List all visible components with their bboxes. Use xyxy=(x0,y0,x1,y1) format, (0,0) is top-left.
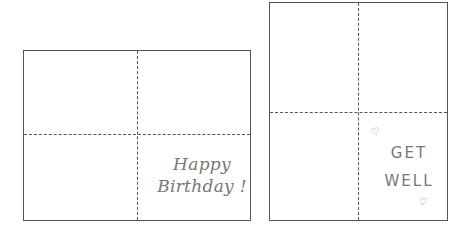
vertical-fold-line xyxy=(137,51,138,220)
message-line-1: Happy xyxy=(152,153,252,175)
birthday-message: Happy Birthday ! xyxy=(152,153,252,197)
horizontal-fold-line xyxy=(270,112,447,113)
message-line-1: GET xyxy=(374,139,444,167)
message-line-2: Birthday ! xyxy=(152,175,252,197)
get-well-message: GET WELL xyxy=(374,139,444,195)
heart-icon: ♡ xyxy=(417,195,429,208)
horizontal-fold-line xyxy=(24,134,250,135)
heart-icon: ♡ xyxy=(370,125,382,138)
get-well-card: ♡ GET WELL ♡ xyxy=(269,2,448,221)
birthday-card: Happy Birthday ! xyxy=(23,50,251,221)
message-line-2: WELL xyxy=(374,167,444,195)
